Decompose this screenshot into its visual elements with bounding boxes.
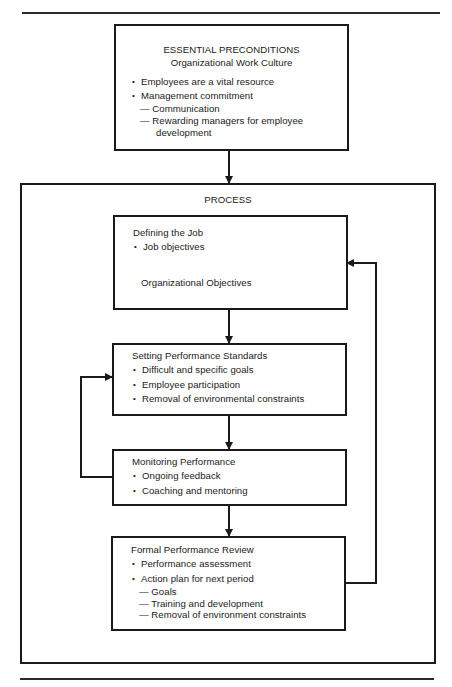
preconditions-subtitle: Organizational Work Culture: [116, 56, 347, 69]
setting-standards-list: Difficult and specific goals Employee pa…: [133, 363, 304, 407]
formal-review-sublist: — Goals — Training and development — Rem…: [139, 586, 306, 621]
setting-standards-bullet: Employee participation: [133, 378, 304, 393]
setting-standards-title: Setting Performance Standards: [132, 349, 267, 362]
defining-job-title: Defining the Job: [133, 226, 203, 239]
monitoring-list: Ongoing feedback Coaching and mentoring: [133, 469, 248, 498]
precondition-bullet: Employees are a vital resource: [132, 75, 274, 88]
formal-review-box: Formal Performance Review Performance as…: [111, 536, 346, 631]
monitoring-title: Monitoring Performance: [132, 455, 235, 468]
setting-standards-box: Setting Performance Standards Difficult …: [112, 343, 347, 416]
formal-review-subitem: — Training and development: [139, 598, 306, 610]
formal-review-subitem: — Goals: [139, 586, 306, 598]
setting-standards-bullet: Removal of environmental constraints: [133, 392, 304, 407]
defining-job-bullet: Job objectives: [134, 240, 205, 253]
formal-review-list: Performance assessment Action plan for n…: [132, 557, 254, 586]
formal-review-bullet: Performance assessment: [132, 557, 254, 572]
formal-review-subitem: — Removal of environment constraints: [139, 609, 306, 621]
preconditions-list: Employees are a vital resource Managemen…: [132, 75, 274, 102]
setting-standards-bullet: Difficult and specific goals: [133, 363, 304, 378]
defining-job-box: Defining the Job Job objectives Organiza…: [113, 215, 348, 310]
defining-job-list: Job objectives: [134, 240, 205, 253]
monitoring-bullet: Coaching and mentoring: [133, 484, 248, 499]
precondition-subitem: development: [140, 127, 303, 139]
preconditions-box: ESSENTIAL PRECONDITIONS Organizational W…: [114, 24, 349, 151]
monitoring-box: Monitoring Performance Ongoing feedback …: [112, 449, 347, 506]
preconditions-sublist: — Communication — Rewarding managers for…: [140, 103, 303, 139]
org-objectives-label: Organizational Objectives: [141, 276, 252, 289]
precondition-subitem: — Communication: [140, 103, 303, 115]
preconditions-title: ESSENTIAL PRECONDITIONS: [116, 43, 347, 56]
formal-review-bullet: Action plan for next period: [132, 572, 254, 587]
process-title: PROCESS: [22, 193, 434, 206]
precondition-bullet: Management commitment: [132, 89, 274, 102]
monitoring-bullet: Ongoing feedback: [133, 469, 248, 484]
precondition-subitem: — Rewarding managers for employee: [140, 115, 303, 127]
formal-review-title: Formal Performance Review: [131, 543, 254, 556]
